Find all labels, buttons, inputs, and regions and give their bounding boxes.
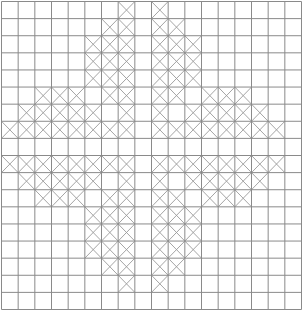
grid-lines — [2, 2, 302, 310]
cross-marks — [2, 2, 285, 293]
cross-stitch-grid — [1, 1, 302, 310]
